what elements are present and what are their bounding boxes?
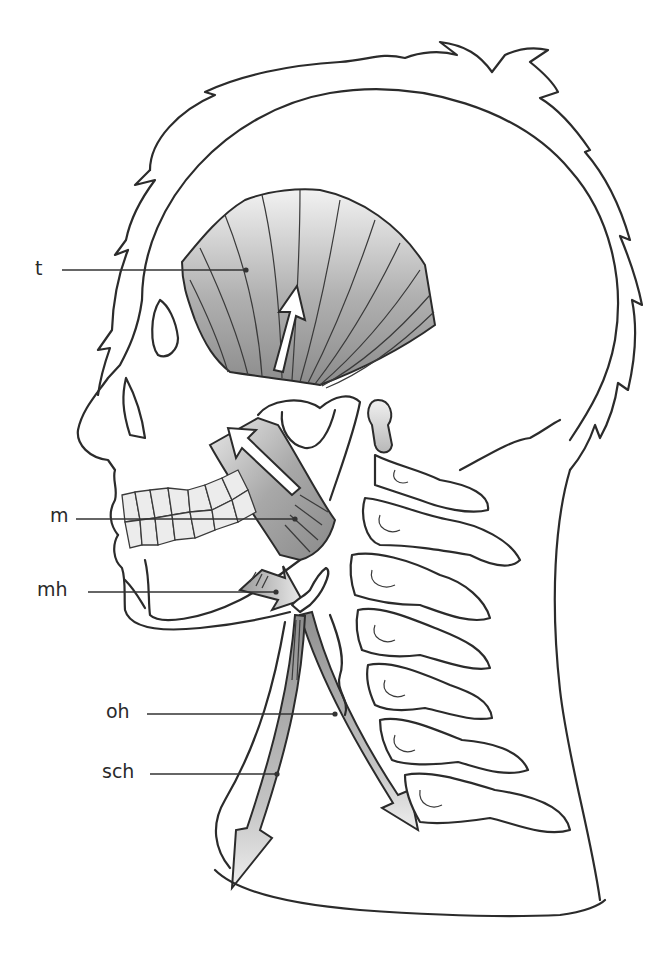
- label-mylohyoid: mh: [37, 580, 68, 599]
- neck-back-outline: [555, 470, 600, 900]
- neck-base-outline: [215, 870, 605, 916]
- orbit-shape: [152, 300, 178, 356]
- teeth: [122, 470, 256, 548]
- temporalis-muscle: [182, 189, 435, 388]
- nasal-shape: [123, 378, 145, 438]
- label-omohyoid: oh: [106, 702, 130, 721]
- label-sternohyoid: sch: [102, 762, 134, 781]
- sternohyoid-muscle: [232, 615, 305, 888]
- ear-process: [368, 400, 392, 453]
- head-neck-muscle-diagram: [0, 0, 669, 975]
- label-masseter: m: [50, 506, 69, 525]
- label-temporalis: t: [35, 259, 42, 278]
